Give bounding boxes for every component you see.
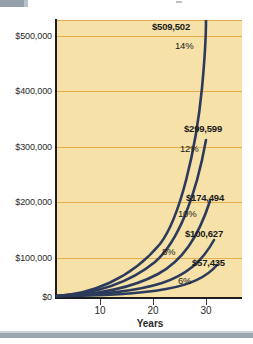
x-axis-title: Years: [110, 318, 190, 329]
annotation-rate-14: 14%: [175, 40, 193, 51]
scan-artifact-tick-top: [176, 1, 182, 3]
x-axis-line: [55, 297, 242, 299]
x-tick-label-20: 20: [138, 305, 168, 316]
x-tick-label-30: 30: [191, 305, 221, 316]
y-tick-label-100000: $100,000: [15, 253, 52, 263]
scan-artifact-bar-left: [0, 0, 24, 7]
annotation-value-6: $57,435: [192, 257, 225, 268]
annotation-rate-8: 8%: [162, 246, 175, 257]
scan-artifact-bar-left-fade: [24, 0, 28, 7]
y-tick-label-400000: $400,000: [15, 86, 52, 96]
annotation-value-14: $509,502: [152, 21, 190, 32]
gridline-500000: [56, 36, 242, 37]
y-tick-label-500000: $500,000: [15, 31, 52, 41]
gridline-400000: [56, 91, 242, 92]
gridline-300000: [56, 147, 242, 148]
y-tick-label-300000: $300,000: [15, 142, 52, 152]
annotation-value-12: $299,599: [184, 123, 222, 134]
page-footer-rule: [0, 333, 253, 338]
y-tick-label-200000: $200,000: [15, 197, 52, 207]
annotation-value-10: $174,494: [186, 192, 224, 203]
annotation-rate-12: 12%: [180, 143, 198, 154]
y-axis-line: [55, 19, 57, 299]
y-tick-label-0: $0: [42, 292, 52, 302]
x-tick-label-10: 10: [85, 305, 115, 316]
annotation-value-8: $100,627: [185, 228, 223, 239]
gridline-540000: [56, 20, 242, 21]
growth-chart-figure: $500,000 $400,000 $300,000 $200,000 $100…: [0, 0, 253, 344]
annotation-rate-6: 6%: [178, 275, 191, 286]
annotation-rate-10: 10%: [178, 208, 196, 219]
